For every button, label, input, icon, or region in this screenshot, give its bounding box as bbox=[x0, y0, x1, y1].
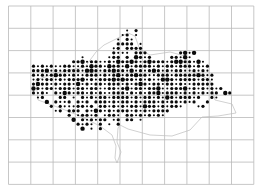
occurrence-dot bbox=[32, 82, 35, 85]
occurrence-dot bbox=[147, 60, 151, 64]
occurrence-dot bbox=[157, 74, 160, 77]
occurrence-dot bbox=[99, 123, 102, 126]
occurrence-dot bbox=[210, 87, 213, 90]
occurrence-dot bbox=[117, 109, 120, 112]
occurrence-dot bbox=[139, 56, 142, 59]
occurrence-dot bbox=[193, 61, 195, 63]
occurrence-dot bbox=[166, 65, 169, 68]
occurrence-dot bbox=[117, 91, 120, 94]
occurrence-dot bbox=[108, 69, 111, 72]
occurrence-dot bbox=[41, 69, 44, 72]
occurrence-dot bbox=[197, 79, 199, 81]
occurrence-dot bbox=[139, 65, 142, 68]
occurrence-dot bbox=[206, 74, 208, 76]
occurrence-dot bbox=[139, 101, 141, 103]
occurrence-dot bbox=[76, 60, 79, 63]
occurrence-dot bbox=[192, 87, 195, 90]
occurrence-dot bbox=[135, 70, 137, 72]
occurrence-dot bbox=[41, 79, 43, 81]
occurrence-dot bbox=[162, 87, 164, 89]
occurrence-dot bbox=[54, 69, 57, 72]
occurrence-dot bbox=[117, 42, 120, 45]
occurrence-dot bbox=[131, 83, 133, 85]
occurrence-dot bbox=[161, 105, 164, 108]
occurrence-dot bbox=[184, 83, 186, 85]
occurrence-dot bbox=[117, 69, 120, 72]
occurrence-dot bbox=[143, 74, 146, 77]
occurrence-dot bbox=[189, 92, 191, 94]
occurrence-dot bbox=[175, 91, 178, 94]
occurrence-dot bbox=[134, 82, 137, 85]
occurrence-dot bbox=[68, 82, 71, 85]
occurrence-dot bbox=[183, 55, 187, 59]
occurrence-dot bbox=[112, 68, 116, 72]
occurrence-dot bbox=[85, 68, 89, 72]
occurrence-dot bbox=[32, 79, 34, 81]
occurrence-dot bbox=[189, 70, 191, 72]
occurrence-dot bbox=[64, 101, 66, 103]
occurrence-dot bbox=[189, 56, 191, 58]
occurrence-dot bbox=[192, 69, 195, 72]
occurrence-dot bbox=[45, 68, 49, 72]
occurrence-dot bbox=[170, 96, 173, 99]
occurrence-dot bbox=[59, 92, 61, 94]
occurrence-dot bbox=[82, 70, 84, 72]
occurrence-dot bbox=[90, 91, 93, 94]
occurrence-dot bbox=[134, 60, 137, 63]
occurrence-dot bbox=[72, 60, 75, 63]
occurrence-dot bbox=[122, 74, 124, 76]
occurrence-dot bbox=[144, 56, 146, 58]
occurrence-dot bbox=[130, 42, 133, 45]
occurrence-dot bbox=[46, 65, 48, 67]
occurrence-dot bbox=[139, 74, 142, 77]
occurrence-dot bbox=[85, 82, 88, 85]
occurrence-dot bbox=[82, 123, 84, 125]
occurrence-dot bbox=[94, 74, 97, 77]
occurrence-dot bbox=[152, 109, 155, 112]
occurrence-dot bbox=[113, 119, 115, 121]
occurrence-dot bbox=[94, 69, 97, 72]
occurrence-dot bbox=[108, 96, 110, 98]
occurrence-dot bbox=[135, 34, 137, 36]
occurrence-dot bbox=[121, 91, 124, 94]
occurrence-dot bbox=[201, 74, 204, 77]
occurrence-dot bbox=[99, 109, 102, 112]
occurrence-dot bbox=[215, 91, 218, 94]
occurrence-dot bbox=[85, 123, 88, 126]
occurrence-dot bbox=[134, 105, 137, 108]
occurrence-dot bbox=[108, 123, 110, 125]
occurrence-dot bbox=[131, 110, 133, 112]
occurrence-dot bbox=[206, 65, 209, 68]
occurrence-dot bbox=[175, 74, 178, 77]
occurrence-dot bbox=[179, 51, 182, 54]
occurrence-dot bbox=[202, 61, 204, 63]
occurrence-dot bbox=[192, 91, 195, 94]
occurrence-dot bbox=[156, 91, 160, 95]
occurrence-dot bbox=[144, 92, 146, 94]
occurrence-dot bbox=[197, 105, 199, 107]
occurrence-dot bbox=[81, 114, 84, 117]
occurrence-dot bbox=[122, 83, 124, 85]
occurrence-dot bbox=[94, 100, 97, 103]
occurrence-dot bbox=[179, 87, 182, 90]
occurrence-dot bbox=[148, 65, 151, 68]
occurrence-dot bbox=[63, 65, 66, 68]
occurrence-dot bbox=[59, 105, 62, 108]
occurrence-dot bbox=[46, 74, 48, 76]
occurrence-dot bbox=[201, 78, 204, 81]
occurrence-dot bbox=[99, 100, 102, 103]
occurrence-dot bbox=[126, 82, 129, 85]
occurrence-dot bbox=[184, 65, 187, 68]
occurrence-dot bbox=[63, 69, 66, 72]
occurrence-dot bbox=[99, 65, 102, 68]
occurrence-dot bbox=[126, 92, 128, 94]
occurrence-dot bbox=[201, 91, 204, 94]
occurrence-dot bbox=[112, 100, 115, 103]
occurrence-dot bbox=[85, 100, 88, 103]
occurrence-dot bbox=[175, 87, 178, 90]
occurrence-dot bbox=[135, 92, 137, 94]
occurrence-dot bbox=[188, 60, 191, 63]
occurrence-dot bbox=[152, 87, 155, 90]
occurrence-dot bbox=[130, 78, 133, 81]
occurrence-dot bbox=[36, 69, 39, 72]
